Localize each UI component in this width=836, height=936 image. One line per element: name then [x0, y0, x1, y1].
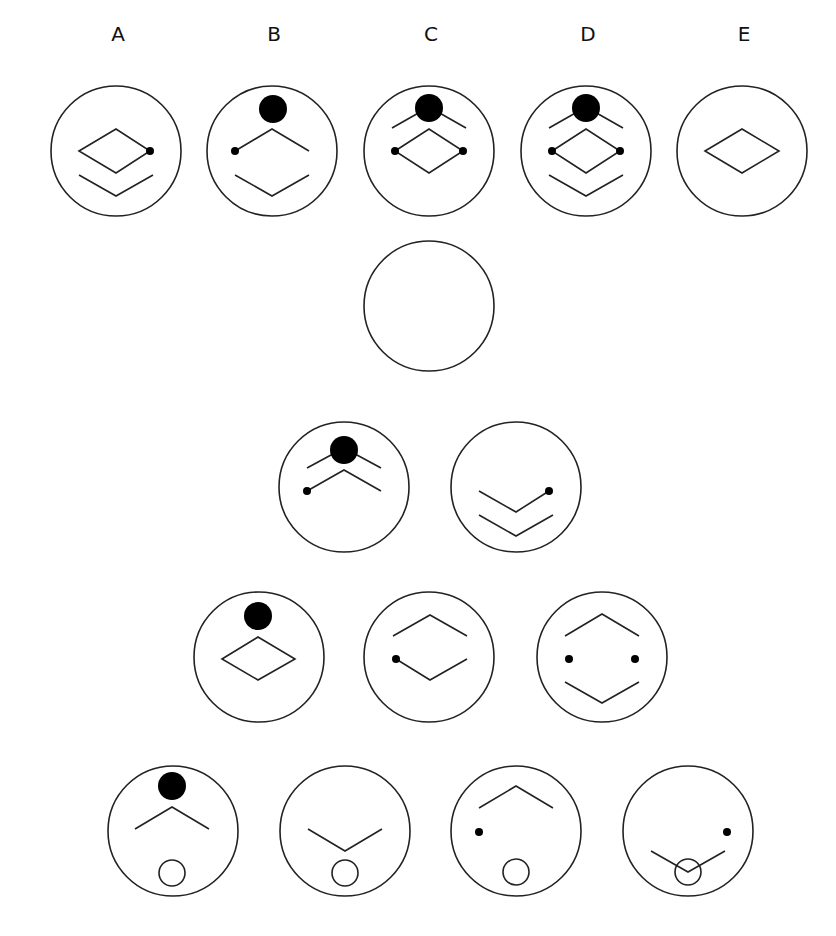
small-dot-icon [548, 147, 556, 155]
small-dot-icon [459, 147, 467, 155]
small-dot-icon [723, 828, 731, 836]
chevron-down-icon [235, 175, 309, 196]
big-dot-icon [244, 602, 272, 630]
small-dot-icon [616, 147, 624, 155]
diamond-icon [222, 637, 295, 680]
ring-icon [332, 860, 358, 886]
chevron-down-icon [651, 851, 725, 872]
small-dot-icon [391, 147, 399, 155]
puzzle-figure-2-1 [279, 422, 409, 552]
chevron-down-icon [479, 515, 553, 536]
big-dot-icon [330, 436, 358, 464]
chevron-down-icon [308, 829, 382, 851]
puzzle-diagram: A B C D E [0, 0, 836, 936]
puzzle-figure-4-4 [623, 766, 753, 896]
puzzle-figure-4-3 [451, 766, 581, 896]
big-dot-icon [415, 94, 443, 122]
big-dot-icon [158, 772, 186, 800]
diamond-icon [552, 129, 620, 173]
puzzle-figure-3-2 [364, 592, 494, 722]
ring-icon [503, 859, 529, 885]
chevron-up-icon [135, 807, 209, 829]
puzzle-figure-3-3 [537, 592, 667, 722]
chevron-down-icon [565, 682, 639, 703]
big-dot-icon [259, 95, 287, 123]
puzzle-figure-2-2 [451, 422, 581, 552]
chevron-down-icon [396, 659, 467, 680]
small-dot-icon [303, 487, 311, 495]
option-a-figure[interactable] [51, 86, 181, 216]
small-dot-icon [231, 147, 239, 155]
missing-figure [364, 241, 494, 371]
big-dot-icon [572, 94, 600, 122]
diamond-icon [395, 129, 463, 173]
puzzle-figure-4-1 [108, 766, 238, 896]
puzzle-figure-4-2 [280, 766, 410, 896]
small-dot-icon [392, 655, 400, 663]
small-dot-icon [565, 655, 573, 663]
chevron-down-icon [549, 175, 623, 196]
small-dot-icon [631, 655, 639, 663]
chevron-up-icon [307, 470, 381, 491]
chevron-up-icon [393, 615, 467, 636]
small-dot-icon [545, 487, 553, 495]
ring-icon [159, 860, 185, 886]
figure-canvas [0, 0, 836, 936]
chevron-up-icon [565, 614, 639, 636]
chevron-up-icon [235, 129, 309, 151]
chevron-down-icon [479, 491, 549, 512]
diamond-icon [705, 129, 779, 173]
option-c-figure[interactable] [364, 86, 494, 216]
puzzle-figure-3-1 [194, 592, 324, 722]
option-d-figure[interactable] [521, 86, 651, 216]
small-dot-icon [146, 147, 154, 155]
small-dot-icon [475, 828, 483, 836]
option-e-figure[interactable] [677, 86, 807, 216]
chevron-up-icon [479, 786, 553, 808]
option-b-figure[interactable] [207, 86, 337, 216]
diamond-icon [79, 129, 150, 173]
chevron-down-icon [79, 175, 153, 196]
